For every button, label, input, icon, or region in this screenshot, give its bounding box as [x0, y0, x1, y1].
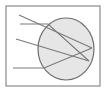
diagram-canvas	[0, 0, 106, 92]
